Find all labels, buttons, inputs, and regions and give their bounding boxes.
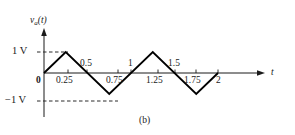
x-axis-title: t <box>271 68 274 78</box>
figure-caption: (b) <box>139 116 150 126</box>
x-tick-label-1-25: 1.25 <box>146 76 163 86</box>
origin-label: 0 <box>36 76 41 86</box>
x-tick-label-1-5: 1.5 <box>168 59 180 69</box>
y-axis-title: va(t) <box>30 16 47 27</box>
x-tick-label-0-75: 0.75 <box>106 76 123 86</box>
x-tick-label-1: 1 <box>128 59 133 69</box>
x-tick-label-1-75: 1.75 <box>184 76 201 86</box>
x-tick-label-0-5: 0.5 <box>80 59 92 69</box>
x-tick-label-0-25: 0.25 <box>56 76 73 86</box>
y-axis-title-argument: (t) <box>38 15 47 25</box>
x-tick-label-2: 2 <box>216 76 221 86</box>
waveform-figure: va(t) 1 V −1 V 0 0.5 1 1.5 0.25 0.75 1.2… <box>0 0 295 135</box>
x-axis-ticks <box>68 70 218 74</box>
y-tick-label-plus-1v: 1 V <box>12 46 27 57</box>
y-tick-label-minus-1v: −1 V <box>5 95 26 106</box>
